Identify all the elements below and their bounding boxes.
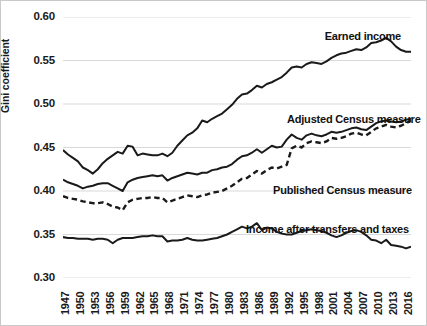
x-axis-tick-label: 1995 <box>298 292 310 315</box>
x-axis-tick-label: 1947 <box>59 292 71 315</box>
x-axis-tick-label: 1974 <box>193 292 205 315</box>
x-axis-tick-label: 1959 <box>119 292 131 315</box>
x-axis-tick-label: 1965 <box>148 292 160 315</box>
x-axis-tick-label: 1956 <box>104 292 116 315</box>
y-axis-tick-label: 0.40 <box>9 184 55 196</box>
x-axis-tick-label: 2007 <box>357 292 369 315</box>
x-axis-tick-label: 1992 <box>283 292 295 315</box>
series-line-0 <box>63 38 411 174</box>
x-axis-tick-label: 1983 <box>238 292 250 315</box>
x-axis-tick-label: 2016 <box>402 292 414 315</box>
x-axis-tick-label: 1968 <box>163 292 175 315</box>
x-axis-tick-label: 2013 <box>387 292 399 315</box>
series-annotation-3: Income after transfers and taxes <box>246 223 409 235</box>
series-annotation-2: Published Census measure <box>273 184 412 196</box>
series-line-1 <box>63 119 411 191</box>
gridlines <box>63 17 411 278</box>
y-axis-tick-label: 0.35 <box>9 228 55 240</box>
series-annotation-1: Adjusted Census measure <box>287 113 421 125</box>
x-axis-tick-label: 2004 <box>342 292 354 315</box>
gini-coefficient-line-chart: Gini coefficient 0.600.550.500.450.400.3… <box>0 0 427 326</box>
x-axis-tick-label: 1989 <box>268 292 280 315</box>
y-axis-tick-label: 0.30 <box>9 271 55 283</box>
series-paths <box>63 38 411 249</box>
plot-svg <box>63 17 411 278</box>
x-axis-tick-label: 1980 <box>223 292 235 315</box>
x-axis-tick-label: 1953 <box>89 292 101 315</box>
x-axis-tick-label: 1950 <box>74 292 86 315</box>
series-annotation-0: Earned income <box>325 30 401 42</box>
x-axis-tick-label: 1962 <box>134 292 146 315</box>
x-axis-tick-label: 2010 <box>372 292 384 315</box>
plot-area <box>63 17 411 278</box>
series-line-2 <box>63 121 411 211</box>
x-axis-tick-label: 1971 <box>178 292 190 315</box>
x-axis-tick-label: 1977 <box>208 292 220 315</box>
y-axis-tick-label: 0.55 <box>9 54 55 66</box>
y-axis-tick-label: 0.45 <box>9 141 55 153</box>
x-axis-tick-label: 2001 <box>327 292 339 315</box>
y-axis-tick-label: 0.60 <box>9 10 55 22</box>
y-axis-tick-label: 0.50 <box>9 97 55 109</box>
x-axis-tick-label: 1986 <box>253 292 265 315</box>
x-axis-tick-label: 1998 <box>313 292 325 315</box>
